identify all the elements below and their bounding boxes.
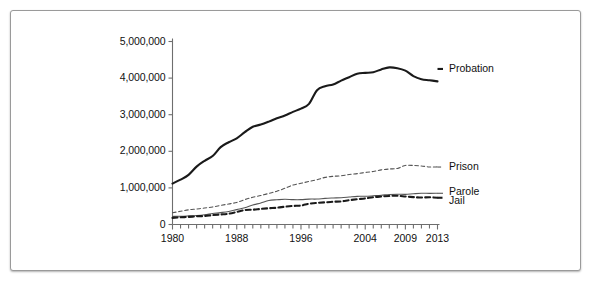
y-axis-label: 1,000,000 — [120, 181, 166, 193]
y-axis-label: 5,000,000 — [120, 35, 166, 47]
y-axis-label: 3,000,000 — [120, 108, 166, 120]
x-axis-label: 1988 — [207, 232, 267, 244]
series-group — [173, 67, 444, 218]
y-axis-label: 4,000,000 — [120, 71, 166, 83]
series-label-jail: Jail — [449, 194, 465, 206]
axes-group — [169, 39, 440, 230]
x-axis-label: 2013 — [408, 232, 468, 244]
x-axis-label: 1996 — [271, 232, 331, 244]
series-line-probation — [173, 67, 438, 183]
series-label-probation: Probation — [449, 62, 494, 74]
y-axis-label: 2,000,000 — [120, 144, 166, 156]
x-axis-label: 1980 — [143, 232, 203, 244]
y-axis-label: 0 — [160, 218, 166, 230]
series-label-prison: Prison — [449, 160, 479, 172]
